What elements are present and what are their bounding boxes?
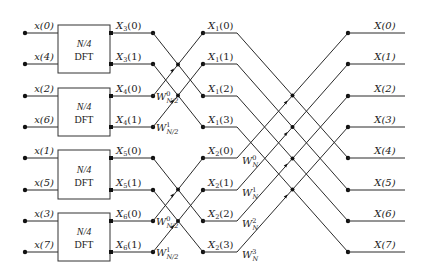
output-label: X(0) bbox=[373, 20, 395, 31]
butterfly-node bbox=[291, 157, 295, 161]
port-marker bbox=[109, 125, 113, 129]
input-node bbox=[23, 188, 27, 192]
stage1-output-label: X3(0) bbox=[115, 20, 142, 33]
stage2-output-label: X2(2) bbox=[207, 208, 234, 221]
input-node bbox=[23, 156, 27, 160]
input-node bbox=[23, 62, 27, 66]
output-label: X(6) bbox=[373, 208, 395, 219]
port-marker bbox=[109, 219, 113, 223]
input-label: x(2) bbox=[34, 83, 54, 94]
twiddle-factor-label: W1N/2 bbox=[156, 121, 178, 136]
stage2-output-label: X1(0) bbox=[207, 20, 234, 33]
dft-block-label: DFT bbox=[75, 239, 94, 250]
twiddle-factor-label: W0N bbox=[242, 154, 258, 169]
stage1-output-label: X5(1) bbox=[115, 177, 142, 190]
input-node bbox=[23, 31, 27, 35]
stage2-output-label: X1(3) bbox=[207, 114, 234, 127]
dft-block-size: N/4 bbox=[76, 38, 91, 49]
port-marker bbox=[109, 250, 113, 254]
butterfly-node bbox=[291, 188, 295, 192]
output-label: X(4) bbox=[373, 145, 395, 156]
twiddle-factor-label: W3N bbox=[242, 248, 258, 263]
stage1-output-label: X6(1) bbox=[115, 239, 142, 252]
stage2-output-label: X2(3) bbox=[207, 239, 234, 252]
butterfly-node bbox=[291, 125, 295, 129]
input-label: x(3) bbox=[34, 208, 54, 219]
dft-block-label: DFT bbox=[75, 177, 94, 188]
stage2-output-label: X2(1) bbox=[207, 177, 234, 190]
stage1-output-label: X4(0) bbox=[115, 83, 142, 96]
input-node bbox=[23, 125, 27, 129]
output-label: X(3) bbox=[373, 114, 395, 125]
input-label: x(0) bbox=[34, 20, 54, 31]
twiddle-factor-label: W1N/2 bbox=[156, 246, 178, 261]
dft-block-label: DFT bbox=[75, 114, 94, 125]
stage2-output-label: X1(2) bbox=[207, 83, 234, 96]
input-label: x(5) bbox=[34, 177, 54, 188]
input-label: x(1) bbox=[34, 145, 54, 156]
input-label: x(7) bbox=[34, 239, 54, 250]
input-label: x(6) bbox=[34, 114, 54, 125]
stage2-output-label: X1(1) bbox=[207, 51, 234, 64]
stage1-output-label: X6(0) bbox=[115, 208, 142, 221]
output-label: X(1) bbox=[373, 51, 395, 62]
stage1-output-label: X3(1) bbox=[115, 51, 142, 64]
port-marker bbox=[109, 188, 113, 192]
port-marker bbox=[109, 156, 113, 160]
dft-block-size: N/4 bbox=[76, 101, 91, 112]
dft-block-label: DFT bbox=[75, 51, 94, 62]
dft-block bbox=[58, 150, 110, 199]
butterfly-node bbox=[176, 188, 180, 192]
twiddle-factor-label: W2N bbox=[242, 217, 258, 232]
butterfly-node bbox=[291, 94, 295, 98]
stage1-output-label: X5(0) bbox=[115, 145, 142, 158]
dft-block-size: N/4 bbox=[76, 164, 91, 175]
input-node bbox=[23, 250, 27, 254]
output-label: X(2) bbox=[373, 83, 395, 94]
output-label: X(5) bbox=[373, 177, 395, 188]
port-marker bbox=[109, 62, 113, 66]
stage1-output-label: X4(1) bbox=[115, 114, 142, 127]
twiddle-factor-label: W1N bbox=[242, 186, 258, 201]
input-node bbox=[23, 94, 27, 98]
port-marker bbox=[109, 94, 113, 98]
stage2-output-label: X2(0) bbox=[207, 145, 234, 158]
dft-block bbox=[58, 25, 110, 73]
dft-block bbox=[58, 213, 110, 261]
port-marker bbox=[109, 31, 113, 35]
output-label: X(7) bbox=[373, 239, 395, 250]
fft-flow-diagram: x(0)x(4)x(2)x(6)x(1)x(5)x(3)x(7)N/4DFTN/… bbox=[0, 0, 425, 274]
input-label: x(4) bbox=[34, 51, 54, 62]
butterfly-node bbox=[176, 63, 180, 67]
input-node bbox=[23, 219, 27, 223]
dft-block bbox=[58, 88, 110, 136]
dft-block-size: N/4 bbox=[76, 226, 91, 237]
